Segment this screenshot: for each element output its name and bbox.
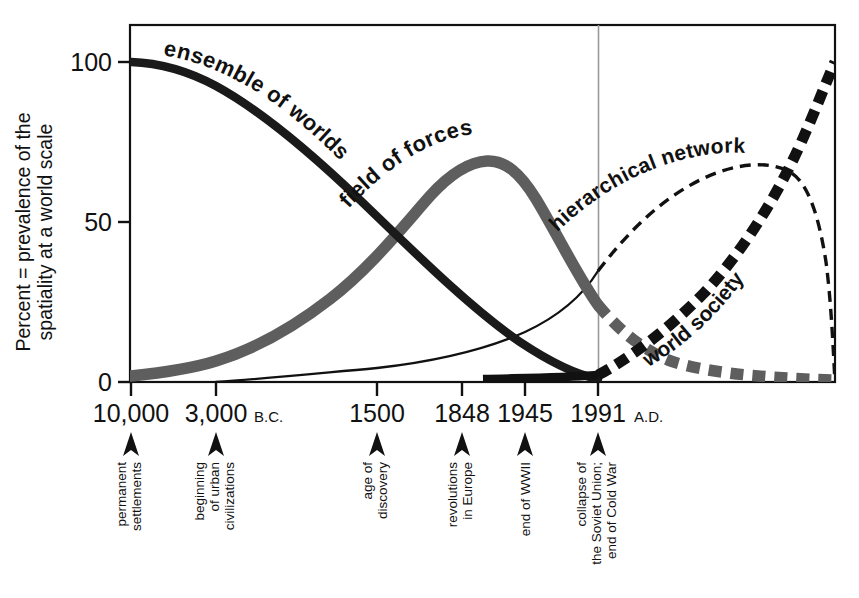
- annotation-collapse-soviet-union-line-1: collapse of: [574, 462, 589, 527]
- annotation-collapse-soviet-union-line-3: end of Cold War: [604, 461, 619, 559]
- annotation-urban-civilizations-line-1: beginning: [192, 462, 207, 521]
- x-tick-label-3000: 3,000: [185, 399, 248, 427]
- prevalence-of-spatialities-chart: 100 50 0 Percent = prevalence of the spa…: [0, 0, 859, 598]
- annotation-collapse-soviet-union-line-2: the Soviet Union;: [589, 462, 604, 565]
- annotation-end-of-wwii-line-1: end of WWII: [518, 462, 533, 536]
- annotation-permanent-settlements-line-2: settlements: [129, 462, 144, 531]
- y-axis-title-line-1: Percent = prevalence of the: [12, 112, 34, 351]
- y-tick-label-50: 50: [84, 208, 112, 236]
- x-axis-labels: 10,000 3,000 B.C. 1500 1848 1945 1991 A.…: [93, 399, 663, 427]
- event-annotations: permanent settlements beginning of urban…: [114, 461, 619, 564]
- x-tick-label-10000: 10,000: [93, 399, 169, 427]
- annotation-urban-civilizations-line-2: of urban: [207, 462, 222, 512]
- series-world-society-solid: [483, 375, 598, 379]
- up-arrow-icon-urban-civilizations: [208, 432, 224, 456]
- y-tick-label-100: 100: [70, 48, 112, 76]
- x-tick-label-1991: 1991: [570, 399, 626, 427]
- x-tick-label-1500: 1500: [349, 399, 405, 427]
- y-axis-title-line-2: spatiality at a world scale: [34, 124, 56, 341]
- y-axis-title: Percent = prevalence of the spatiality a…: [12, 112, 56, 351]
- annotation-urban-civilizations-line-3: civilizations: [222, 462, 237, 531]
- annotation-revolutions-in-europe-line-2: in Europe: [460, 462, 475, 520]
- annotation-permanent-settlements-line-1: permanent: [114, 462, 129, 527]
- up-arrow-icon-revolutions-in-europe: [454, 432, 470, 456]
- annotation-age-of-discovery-line-2: discovery: [375, 462, 390, 519]
- annotation-age-of-discovery-line-1: age of: [360, 462, 375, 500]
- up-arrow-icon-collapse-soviet-union: [590, 432, 606, 456]
- y-axis: 100 50 0: [70, 48, 130, 396]
- x-tick-label-1848: 1848: [434, 399, 490, 427]
- x-tick-label-1945: 1945: [497, 399, 553, 427]
- up-arrow-icon-age-of-discovery: [369, 432, 385, 456]
- x-axis: [131, 382, 598, 396]
- x-tick-era-ad: A.D.: [634, 408, 663, 425]
- y-tick-label-0: 0: [98, 368, 112, 396]
- x-tick-era-bc: B.C.: [254, 408, 283, 425]
- chart-canvas: 100 50 0 Percent = prevalence of the spa…: [0, 0, 859, 598]
- up-arrow-icon-permanent-settlements: [123, 432, 139, 456]
- annotation-revolutions-in-europe-line-1: revolutions: [445, 462, 460, 528]
- event-arrow-markers: [123, 432, 606, 456]
- up-arrow-icon-end-of-wwii: [517, 432, 533, 456]
